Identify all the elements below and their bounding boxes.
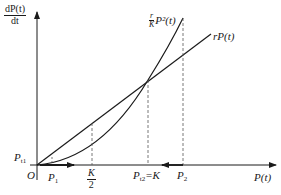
p2-label: P2 — [177, 170, 187, 183]
diagram-canvas — [0, 0, 281, 195]
y-label-num: dP(t) — [4, 4, 26, 16]
x-axis-label: P(t) — [254, 172, 271, 183]
linear-label: rP(t) — [213, 31, 234, 42]
y-label-den: dt — [11, 16, 19, 27]
quadratic-curve — [37, 18, 183, 165]
k-half-num: K — [87, 168, 96, 180]
k-half-den: 2 — [89, 180, 94, 191]
p1-label: P1 — [48, 172, 58, 185]
y-axis-label: dP(t) dt — [4, 4, 26, 26]
linear-curve — [37, 34, 211, 165]
quadratic-label: r K P²(t) — [149, 12, 176, 30]
p-t1-label: Pt1 — [14, 152, 26, 165]
origin-label: O — [27, 170, 35, 181]
quad-label-den: K — [149, 21, 154, 29]
p-t2-label: Pt2=K — [133, 170, 160, 183]
quad-label-rest: P²(t) — [155, 15, 175, 26]
k-half-label: K 2 — [87, 168, 96, 190]
